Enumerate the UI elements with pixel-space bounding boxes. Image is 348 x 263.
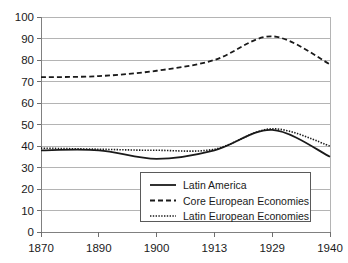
x-axis-tick-label: 1890 (86, 242, 112, 254)
x-axis-tick-label: 1940 (317, 242, 343, 254)
x-axis-tick-label: 1900 (144, 242, 170, 254)
y-axis-tick-label: 30 (21, 162, 34, 174)
x-axis-tick-label: 1913 (202, 242, 228, 254)
line-chart: 0102030405060708090100 18701890190019131… (0, 0, 348, 263)
y-axis-tick-label: 40 (21, 140, 34, 152)
legend-item-label: Latin European Economies (183, 210, 309, 222)
y-axis-tick-label: 100 (15, 11, 34, 23)
y-axis-tick-label: 60 (21, 97, 34, 109)
x-axis-tick-label: 1870 (28, 242, 54, 254)
y-axis-tick-label: 10 (21, 205, 34, 217)
chart-container: 0102030405060708090100 18701890190019131… (0, 0, 348, 263)
x-axis-tick-label: 1929 (259, 242, 285, 254)
y-axis-tick-label: 90 (21, 33, 34, 45)
y-axis-tick-label: 70 (21, 76, 34, 88)
y-axis-tick-label: 0 (28, 226, 34, 238)
y-axis-tick-label: 20 (21, 183, 34, 195)
y-axis-tick-label: 50 (21, 119, 34, 131)
chart-legend: Latin AmericaCore European EconomiesLati… (141, 173, 311, 223)
legend-item-label: Latin America (183, 179, 247, 191)
chart-background (0, 0, 348, 263)
y-axis-tick-label: 80 (21, 54, 34, 66)
legend-item-label: Core European Economies (183, 195, 309, 207)
